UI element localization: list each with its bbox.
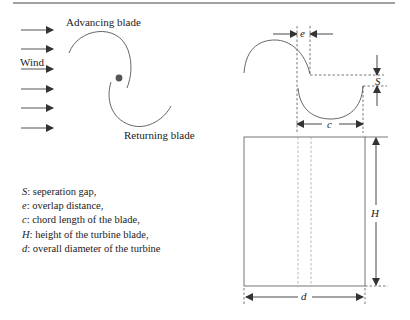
d-label: d — [301, 290, 307, 302]
legend-item: c: chord length of the blade, — [22, 213, 161, 227]
e-label: e — [300, 27, 305, 39]
upper-blade-arc — [244, 40, 310, 74]
c-label: c — [327, 118, 332, 130]
lower-blade-arc — [298, 86, 363, 119]
hub-icon — [116, 75, 123, 82]
turbine-front-view — [244, 137, 365, 286]
returning-blade — [109, 82, 171, 127]
wind-label: Wind — [20, 56, 44, 68]
s-label: S — [375, 75, 381, 87]
legend-item: S: seperation gap, — [22, 185, 161, 199]
legend-item: e: overlap distance, — [22, 199, 161, 213]
returning-blade-label: Returning blade — [124, 129, 195, 141]
legend: S: seperation gap, e: overlap distance, … — [22, 185, 161, 256]
legend-item: H: height of the turbine blade, — [22, 228, 161, 242]
h-label: H — [370, 207, 380, 219]
advancing-blade-label: Advancing blade — [66, 16, 141, 28]
shaft-dashes — [298, 137, 311, 286]
legend-item: d: overall diameter of the turbine — [22, 242, 161, 256]
wind-arrows — [21, 30, 53, 128]
savonius-diagram: Wind Advancing blade Returning blade e S… — [0, 0, 410, 320]
